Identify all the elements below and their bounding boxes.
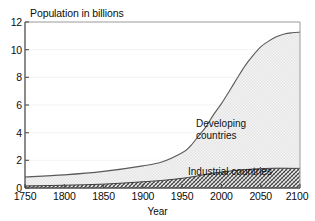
annotation-developing-countries: Developing countries — [196, 118, 246, 141]
x-tick-1900: 1900 — [132, 190, 155, 202]
y-tick-10: 10 — [0, 44, 22, 56]
annotation-developing-line2: countries — [196, 130, 246, 142]
x-tick-2050: 2050 — [249, 190, 272, 202]
x-tick-2100: 2100 — [286, 190, 309, 202]
chart-figure: World population projection Population i… — [0, 0, 315, 221]
y-tick-6: 6 — [0, 99, 22, 111]
y-axis-label: Population in billions — [30, 7, 124, 19]
annotation-industrial-countries: Industrial countries — [188, 166, 272, 178]
x-tick-1750: 1750 — [14, 190, 37, 202]
y-tick-labels: 12 10 8 6 4 2 0 — [0, 0, 22, 221]
y-tick-8: 8 — [0, 71, 22, 83]
x-tick-1950: 1950 — [171, 190, 194, 202]
annotation-developing-line1: Developing — [196, 118, 246, 130]
plot-area — [0, 0, 315, 221]
area-developing-countries — [25, 32, 300, 186]
y-tick-4: 4 — [0, 127, 22, 139]
y-tick-12: 12 — [0, 16, 22, 28]
y-tick-2: 2 — [0, 154, 22, 166]
x-tick-1850: 1850 — [92, 190, 115, 202]
x-tick-1800: 1800 — [53, 190, 76, 202]
x-tick-2000: 2000 — [210, 190, 233, 202]
x-axis-label: Year — [0, 206, 315, 217]
